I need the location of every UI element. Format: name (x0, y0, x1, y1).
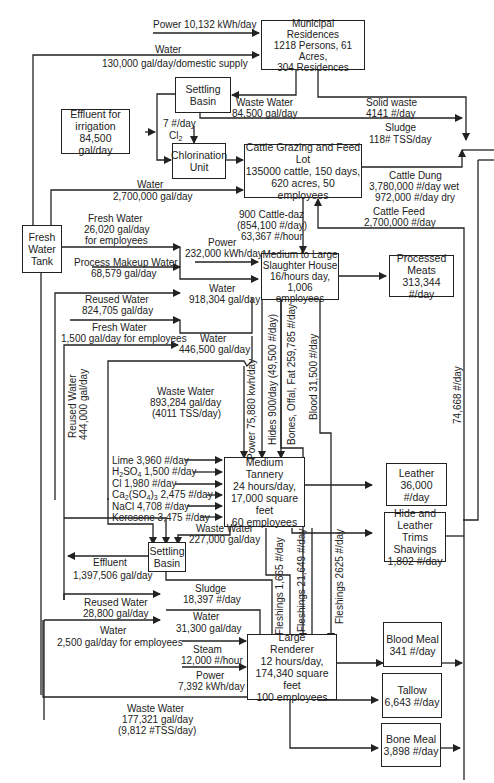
settling-basin-top-line-2: Basin (190, 95, 216, 107)
processed-meats-line-1: Processed (397, 252, 447, 264)
settling-basin-top-line-1: Settling (185, 83, 220, 95)
settling-basin-top-box: Settling Basin (175, 77, 231, 113)
slaughter-line-2: Slaughter House (263, 260, 338, 271)
feedlot-line-1: Cattle Grazing and Feed Lot (245, 141, 361, 165)
tank-line-3: Tank (31, 255, 53, 267)
power-slaughter-label-1: Power (208, 237, 236, 248)
hide-trims-line-1: Hide and (394, 507, 436, 519)
process-makeup-label-1: Process Makeup Water (74, 257, 178, 268)
feedlot-box: Cattle Grazing and Feed Lot 135000 cattl… (244, 144, 362, 198)
chem-cl-label: Cl 1,980 #/day (112, 478, 177, 489)
reused-water-444-label-2: 444,000 gal/day (78, 369, 89, 440)
water-2500-label-1: Water (100, 625, 126, 636)
water-446-label-1: Water (200, 333, 226, 344)
hide-trims-line-3: Shavings (393, 543, 436, 555)
bone-meal-box: Bone Meal 3,898 #/day (381, 723, 441, 767)
tallow-box: Tallow 6,643 #/day (382, 673, 442, 718)
effluent-irrigation-box: Effluent for irrigation 84,500 gal/day (61, 109, 130, 154)
cattle-feed-label-2: 2,700,000 #/day (364, 217, 436, 228)
fleshings-2625-label: Fleshings 2625 #/day (334, 529, 345, 624)
renderer-line-5: 100 employees (256, 691, 327, 703)
feedlot-line-3: 620 acres, 50 employees (245, 177, 361, 201)
waste-water-municipal-label-2: 84,500 gal/day (232, 108, 298, 119)
fresh-water-employees-label-3: for employees (85, 235, 148, 246)
water-feedlot-label-1: Water (137, 179, 163, 190)
effluent-irrigation-line-1: Effluent for (70, 108, 121, 120)
reused-water-28800-label-1: Reused Water (84, 597, 148, 608)
fresh-water-employees-label-2: 26,020 gal/day (84, 224, 150, 235)
water-municipal-label-2: 130,000 gal/day/domestic supply (102, 58, 248, 69)
reused-water-28800-label-2: 28,800 gal/day (83, 608, 149, 619)
water-feedlot-label-2: 2,700,000 gal/day (113, 191, 193, 202)
effluent-bottom-label-2: 1,397,506 gal/day (73, 570, 153, 581)
waste-water-municipal-label-1: Waste Water (236, 97, 293, 108)
cattle-feed-label-1: Cattle Feed (373, 206, 425, 217)
chlorination-line-1: Chlorination (171, 149, 227, 161)
reused-water-824-label-1: Reused Water (85, 294, 149, 305)
reused-water-444-label-1: Reused Water (67, 374, 78, 438)
blood-meal-box: Blood Meal 341 #/day (383, 622, 442, 667)
tannery-line-4: 17,000 square feet (225, 492, 304, 516)
effluent-irrigation-line-2: irrigation (75, 120, 115, 132)
power-renderer-label-2: 7,392 kWh/day (178, 681, 245, 692)
cattle-daz-label-3: 63,367 #/hour (241, 231, 303, 242)
processed-meats-box: Processed Meats 313,344 #/day (389, 255, 454, 297)
tank-line-2: Water (28, 243, 56, 255)
blood-meal-line-2: 341 #/day (389, 645, 435, 657)
sludge-bottom-label-2: 18,397 #/day (183, 594, 241, 605)
fresh-water-employees-label-1: Fresh Water (88, 213, 143, 224)
effluent-bottom-label-1: Effluent (93, 557, 127, 568)
tallow-line-1: Tallow (397, 684, 426, 696)
chem-lime-label: Lime 3,960 #/day (112, 455, 189, 466)
water-slaughter-label-2: 918,304 gal/day (189, 294, 260, 305)
bones-offal-label: Bones, Offal, Fat 259,785 #/day (286, 304, 297, 445)
solid-waste-label-1: Solid waste (366, 97, 417, 108)
solid-waste-label-2: 4141 #/day (366, 108, 416, 119)
reused-water-824-label-2: 824,705 gal/day (82, 305, 153, 316)
blood-label: Blood 31,500 #/day (308, 334, 319, 420)
municipal-residences-box: Municipal Residences 1218 Persons, 61 Ac… (261, 20, 365, 70)
steam-label-1: Steam (193, 644, 222, 655)
power-renderer-label-1: Power (196, 670, 224, 681)
water-31300-label-2: 31,300 gal/day (176, 623, 242, 634)
tallow-line-2: 6,643 #/day (385, 696, 440, 708)
waste-water-renderer-label-1: Waste Water (127, 703, 184, 714)
water-31300-label-1: Water (193, 611, 219, 622)
cattle-daz-label-1: 900 Cattle-daz (239, 209, 304, 220)
cattle-dung-label-1: Cattle Dung (389, 170, 442, 181)
waste-water-227-label-1: Waste Water (196, 523, 253, 534)
to-right-74668-label: 74,668 #/day (452, 366, 463, 424)
tannery-line-3: 24 hours/day, (233, 480, 296, 492)
slaughter-house-box: Medium to Large Slaughter House 16/hours… (261, 253, 339, 300)
slaughter-line-3: 16/hours day, (270, 271, 330, 282)
renderer-line-4: 174,340 square feet (248, 667, 336, 691)
leather-line-2: 36,000 #/day (387, 479, 446, 503)
process-makeup-label-2: 68,579 gal/day (91, 268, 157, 279)
renderer-line-3: 12 hours/day, (261, 655, 324, 667)
hide-trims-line-2: Leather Trims (385, 519, 445, 543)
feedlot-line-2: 135000 cattle, 150 days, (246, 165, 360, 177)
leather-line-1: Leather (399, 467, 435, 479)
fresh-water-1500-label-1: Fresh Water (92, 322, 147, 333)
settling-basin-bottom-line-1: Settling (149, 545, 184, 557)
water-municipal-label-1: Water (155, 44, 181, 55)
chlorination-line-2: Unit (190, 161, 209, 173)
cattle-daz-label-2: (854,100 #/day) (237, 220, 307, 231)
water-slaughter-label-1: Water (209, 283, 235, 294)
sludge-top-label-1: Sludge (385, 122, 416, 133)
chem-nacl-label: NaCl 4,708 #/day (112, 501, 189, 512)
hide-trims-line-4: 1,802 #/day (388, 555, 443, 567)
chlorination-unit-box: Chlorination Unit (172, 143, 226, 179)
municipal-line-4: 304 Residences (277, 62, 349, 73)
water-2500-label-2: 2,500 gal/day for employees (57, 637, 183, 648)
processed-meats-line-3: 313,344 #/day (390, 276, 453, 300)
tank-line-1: Fresh (29, 231, 56, 243)
processed-meats-line-2: Meats (407, 264, 436, 276)
fleshings-1665-label: Fleshings 1,665 #/day (274, 537, 285, 635)
slaughter-line-1: Medium to Large (262, 249, 337, 260)
power-municipal-label: Power 10,132 kWh/day (153, 19, 256, 30)
bone-meal-line-2: 3,898 #/day (384, 745, 439, 757)
cattle-dung-label-3: 972,000 #/day dry (375, 192, 455, 203)
waste-water-renderer-label-3: (9,812 #TSS/day) (118, 725, 196, 736)
hide-trims-box: Hide and Leather Trims Shavings 1,802 #/… (384, 512, 446, 562)
